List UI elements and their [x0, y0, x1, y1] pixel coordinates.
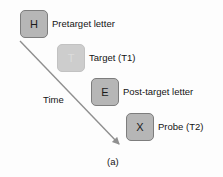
stimulus-box-pretarget: H — [20, 10, 48, 38]
stimulus-label-pretarget: Pretarget letter — [52, 19, 115, 29]
stimulus-box-target: T — [57, 44, 85, 72]
time-axis-label: Time — [43, 95, 64, 105]
stimulus-label-target: Target (T1) — [89, 53, 135, 63]
stimulus-letter-probe: X — [136, 121, 143, 133]
panel-caption: (a) — [107, 157, 119, 167]
stimulus-letter-pretarget: H — [30, 18, 38, 30]
stimulus-label-posttarget: Post-target letter — [123, 87, 193, 97]
stimulus-letter-posttarget: E — [101, 86, 108, 98]
stimulus-box-probe: X — [126, 113, 154, 141]
stimulus-label-probe: Probe (T2) — [158, 122, 203, 132]
trial-sequence-diagram: H Pretarget letter T Target (T1) E Post-… — [0, 0, 223, 177]
stimulus-letter-target: T — [68, 52, 75, 64]
stimulus-box-posttarget: E — [91, 78, 119, 106]
